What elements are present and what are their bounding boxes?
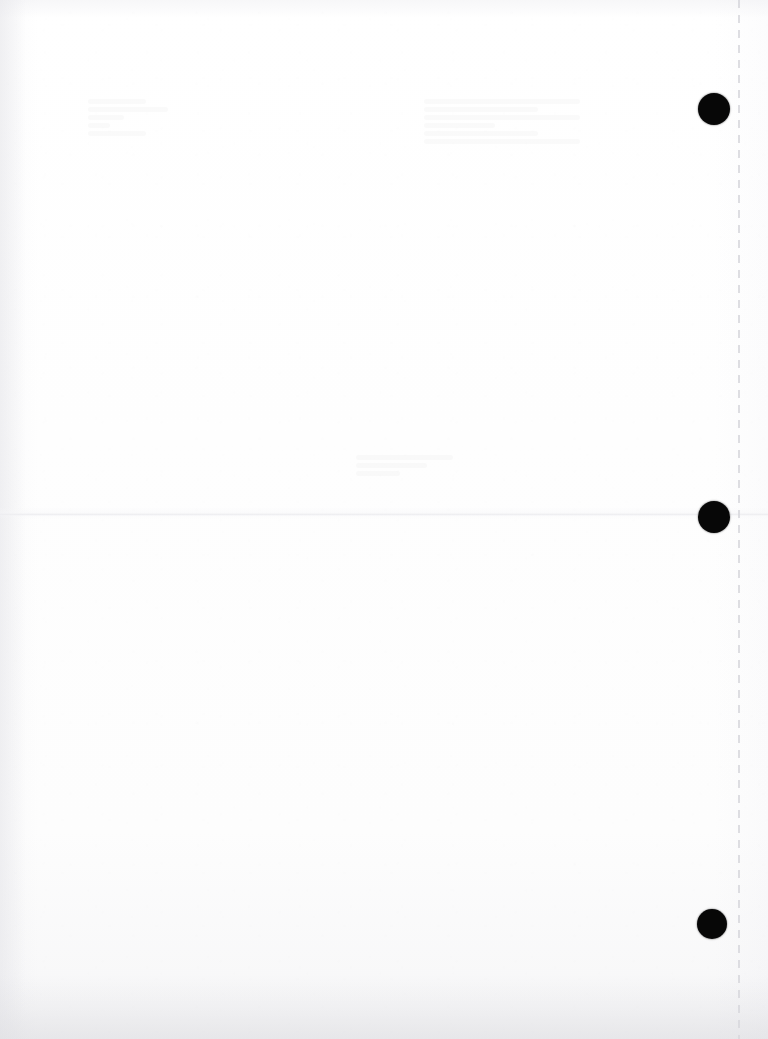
paper-noise-texture	[0, 0, 768, 1039]
registration-mark-bottom	[697, 909, 727, 939]
scanned-page	[0, 0, 768, 1039]
horizontal-fold-crease	[0, 513, 768, 516]
registration-mark-middle	[698, 501, 730, 533]
vertical-perforation-line	[738, 0, 740, 1039]
registration-mark-top	[698, 93, 730, 125]
